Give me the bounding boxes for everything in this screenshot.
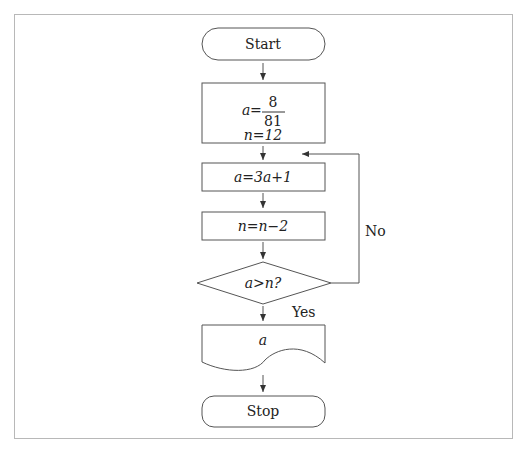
flowchart: Start a = 8 81 n=12 a=3a+1 n=n−2 a>n? a … bbox=[0, 0, 528, 451]
fraction-numerator: 8 bbox=[269, 94, 278, 110]
init-n-label: n=12 bbox=[244, 127, 283, 143]
init-eq: = bbox=[250, 102, 262, 118]
no-loop-edge bbox=[302, 154, 359, 283]
step-a-label: a=3a+1 bbox=[234, 169, 292, 185]
output-label: a bbox=[259, 332, 267, 348]
yes-edge-label: Yes bbox=[291, 304, 316, 320]
decision-label: a>n? bbox=[245, 275, 282, 291]
start-label: Start bbox=[245, 36, 281, 52]
step-n-label: n=n−2 bbox=[238, 218, 288, 234]
stop-label: Stop bbox=[247, 403, 280, 419]
no-edge-label: No bbox=[365, 223, 386, 239]
